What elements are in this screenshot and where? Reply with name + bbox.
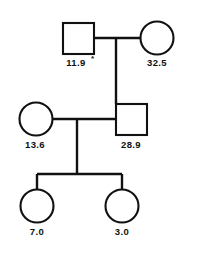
label-child-right: 3.0	[115, 226, 129, 237]
pedigree-diagram: 11.9 * 32.5 13.6 28.9 7.0 3.0	[0, 0, 197, 253]
label-founder-male: 11.9	[66, 57, 86, 68]
individual-circle-gen2-female	[20, 103, 53, 136]
label-gen2-female: 13.6	[25, 139, 45, 150]
individual-circle-founder-female	[141, 22, 174, 55]
label-gen2-male: 28.9	[121, 139, 141, 150]
individual-square-gen2-male	[116, 104, 147, 135]
asterisk-marker-founder-male: *	[91, 54, 95, 63]
individual-square-founder-male	[63, 23, 94, 54]
individual-circle-child-right	[106, 190, 139, 223]
label-child-left: 7.0	[30, 226, 44, 237]
individual-circle-child-left	[21, 190, 54, 223]
pedigree-canvas: 11.9 * 32.5 13.6 28.9 7.0 3.0	[0, 0, 197, 253]
label-founder-female: 32.5	[147, 57, 167, 68]
